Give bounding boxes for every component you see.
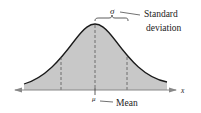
sigma-leader-line (120, 12, 140, 15)
x-axis-right-arrow-icon (169, 88, 177, 93)
std-dev-label-line1: Standard (144, 9, 178, 19)
mean-leader-line (100, 101, 113, 102)
area-under-curve (24, 24, 167, 90)
std-dev-label-line2: deviation (146, 23, 182, 33)
sigma-label: σ (110, 6, 115, 16)
x-axis-label: x (180, 86, 185, 95)
mu-label: μ (92, 95, 96, 103)
mean-label: Mean (116, 98, 138, 108)
normal-curve-diagram: σ Standard deviation μ Mean x (0, 0, 201, 113)
x-axis-left-arrow-icon (14, 88, 22, 93)
